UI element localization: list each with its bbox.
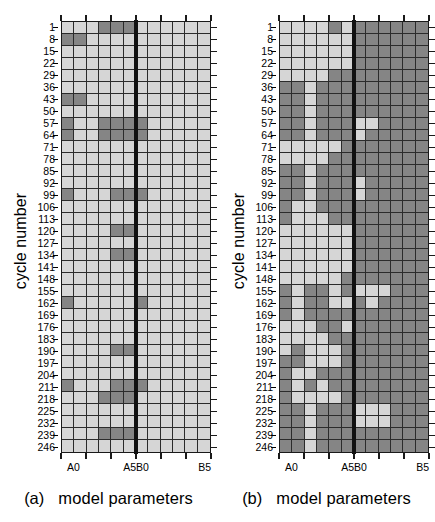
heatmap-cell bbox=[185, 141, 197, 153]
heatmap-cell bbox=[74, 392, 86, 404]
heatmap-cell bbox=[379, 177, 391, 189]
panel-tag-b: (b) bbox=[242, 489, 262, 508]
heatmap-cell bbox=[161, 356, 173, 368]
heatmap-cell bbox=[292, 249, 304, 261]
heatmap-cell bbox=[403, 34, 415, 46]
heatmap-cell bbox=[391, 177, 403, 189]
heatmap-cell bbox=[305, 70, 317, 82]
heatmap-cell bbox=[87, 368, 99, 380]
heatmap-cell bbox=[111, 273, 123, 285]
heatmap-cell bbox=[136, 261, 148, 273]
heatmap-cell bbox=[391, 130, 403, 142]
heatmap-cell bbox=[391, 285, 403, 297]
y-tick-label: 246 bbox=[20, 441, 58, 453]
heatmap-cell bbox=[305, 94, 317, 106]
heatmap-cell bbox=[161, 70, 173, 82]
heatmap-cell bbox=[280, 404, 292, 416]
y-tick-label: 8 bbox=[238, 33, 276, 45]
y-tick-label: 120 bbox=[20, 225, 58, 237]
heatmap-cell bbox=[280, 333, 292, 345]
heatmap-cell bbox=[379, 106, 391, 118]
heatmap-cell bbox=[198, 368, 210, 380]
y-tick-label: 85 bbox=[20, 165, 58, 177]
heatmap-cell bbox=[317, 70, 329, 82]
heatmap-cell bbox=[148, 368, 160, 380]
heatmap-cell bbox=[148, 345, 160, 357]
heatmap-cell bbox=[161, 321, 173, 333]
heatmap-cell bbox=[354, 141, 366, 153]
heatmap-cell bbox=[136, 22, 148, 34]
x-tick-mark bbox=[60, 453, 61, 459]
heatmap-cell bbox=[317, 22, 329, 34]
heatmap-cell bbox=[136, 285, 148, 297]
heatmap-cell bbox=[74, 58, 86, 70]
heatmap-cell bbox=[317, 213, 329, 225]
heatmap-cell bbox=[111, 130, 123, 142]
heatmap-cell bbox=[329, 70, 341, 82]
y-tick-label: 225 bbox=[238, 405, 276, 417]
heatmap-cell bbox=[403, 404, 415, 416]
y-tick-label: 211 bbox=[238, 381, 276, 393]
heatmap-cell bbox=[198, 333, 210, 345]
heatmap-cell bbox=[354, 177, 366, 189]
y-tick-label: 57 bbox=[20, 117, 58, 129]
heatmap-cell bbox=[185, 46, 197, 58]
heatmap-cell bbox=[329, 428, 341, 440]
heatmap-cell bbox=[391, 333, 403, 345]
heatmap-cell bbox=[317, 356, 329, 368]
y-tick-mark-right bbox=[211, 111, 217, 112]
heatmap-cell bbox=[198, 225, 210, 237]
heatmap-cell bbox=[148, 321, 160, 333]
heatmap-cell bbox=[161, 225, 173, 237]
heatmap-cell bbox=[391, 368, 403, 380]
heatmap-cell bbox=[280, 380, 292, 392]
heatmap-cell bbox=[62, 153, 74, 165]
heatmap-cell bbox=[305, 416, 317, 428]
heatmap-cell bbox=[185, 428, 197, 440]
heatmap-cell bbox=[173, 225, 185, 237]
heatmap-cell bbox=[379, 356, 391, 368]
heatmap-cell bbox=[403, 141, 415, 153]
y-tick-label: 29 bbox=[238, 69, 276, 81]
y-tick-mark-right bbox=[211, 51, 217, 52]
heatmap-cell bbox=[62, 345, 74, 357]
heatmap-cell bbox=[87, 297, 99, 309]
heatmap-cell bbox=[366, 249, 378, 261]
heatmap-cell bbox=[329, 106, 341, 118]
y-tick-mark-right bbox=[429, 207, 435, 208]
y-tick-mark-right bbox=[211, 219, 217, 220]
x-tick-mark bbox=[378, 453, 379, 459]
heatmap-cell bbox=[354, 46, 366, 58]
y-axis-tick-labels-b: 1815222936435057647178859299106113120127… bbox=[238, 21, 276, 453]
heatmap-cell bbox=[280, 46, 292, 58]
heatmap-cell bbox=[99, 189, 111, 201]
heatmap-cell bbox=[111, 58, 123, 70]
heatmap-cell bbox=[62, 82, 74, 94]
heatmap-cell bbox=[354, 321, 366, 333]
heatmap-cell bbox=[329, 94, 341, 106]
heatmap-cell bbox=[148, 141, 160, 153]
heatmap-cell bbox=[329, 321, 341, 333]
heatmap-cell bbox=[305, 321, 317, 333]
heatmap-cell bbox=[391, 106, 403, 118]
heatmap-cell bbox=[198, 309, 210, 321]
y-tick-mark-right bbox=[211, 375, 217, 376]
heatmap-cell bbox=[87, 309, 99, 321]
heatmap-cell bbox=[292, 285, 304, 297]
heatmap-cell bbox=[74, 345, 86, 357]
heatmap-cell bbox=[74, 309, 86, 321]
heatmap-cell bbox=[379, 273, 391, 285]
heatmap-cell bbox=[111, 70, 123, 82]
heatmap-cell bbox=[391, 249, 403, 261]
heatmap-cell bbox=[62, 416, 74, 428]
x-tick-mark bbox=[403, 453, 404, 459]
heatmap-cell bbox=[136, 165, 148, 177]
heatmap-cell bbox=[366, 225, 378, 237]
heatmap-cell bbox=[292, 368, 304, 380]
heatmap-cell bbox=[317, 201, 329, 213]
heatmap-cell bbox=[305, 285, 317, 297]
heatmap-cell bbox=[198, 189, 210, 201]
heatmap-cell bbox=[391, 321, 403, 333]
heatmap-cell bbox=[74, 153, 86, 165]
heatmap-cell bbox=[292, 321, 304, 333]
